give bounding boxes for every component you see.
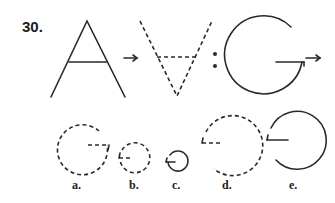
option-a-label[interactable]: a.	[72, 178, 81, 192]
option-d-figure[interactable]	[202, 116, 263, 176]
option-a-figure[interactable]	[57, 125, 109, 175]
option-c-label[interactable]: c.	[172, 178, 180, 192]
option-b-label[interactable]: b.	[129, 178, 139, 192]
arrow-right-icon	[306, 55, 320, 61]
option-c-figure[interactable]	[166, 151, 188, 171]
arrow-right-icon	[124, 55, 137, 61]
figure-letter-g	[225, 16, 304, 94]
option-b-figure[interactable]	[119, 143, 150, 173]
figure-inverted-dashed-a	[140, 21, 212, 96]
analogy-separator-colon	[213, 52, 217, 68]
analogy-question: 30.	[0, 0, 335, 203]
option-e-figure[interactable]	[267, 111, 326, 169]
option-d-label[interactable]: d.	[222, 178, 232, 192]
option-e-label[interactable]: e.	[289, 178, 297, 192]
figure-letter-a	[51, 21, 125, 97]
question-number: 30.	[22, 18, 43, 35]
